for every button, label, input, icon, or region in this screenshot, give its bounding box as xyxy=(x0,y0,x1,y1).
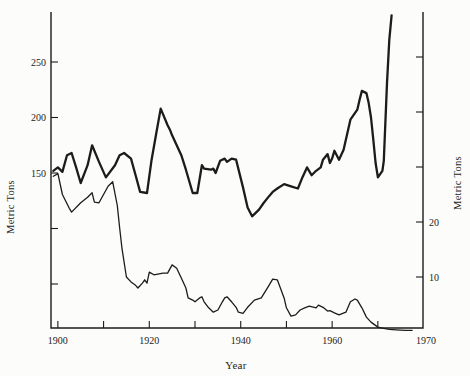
x-tick-label: 1940 xyxy=(231,335,251,346)
left-axis-title: Metric Tons xyxy=(5,180,16,234)
y-tick-label-left: 200 xyxy=(31,112,46,123)
x-tick-label: 1920 xyxy=(139,335,159,346)
x-axis-title: Year xyxy=(225,359,246,371)
upper-series-line xyxy=(53,15,391,216)
axis-frame xyxy=(51,12,423,328)
y-tick-label-right: 20 xyxy=(429,217,439,228)
x-tick-label: 1970 xyxy=(416,335,436,346)
x-tick-label: 1960 xyxy=(322,335,342,346)
lower-series-line xyxy=(53,174,412,331)
x-tick-label: 1900 xyxy=(48,335,68,346)
y-tick-label-left: 150 xyxy=(31,168,46,179)
y-tick-label-left: 250 xyxy=(31,57,46,68)
line-chart: 190019201940196019701502002501020 xyxy=(0,0,470,376)
y-tick-label-right: 10 xyxy=(429,272,439,283)
chart-figure: 190019201940196019701502002501020 Metric… xyxy=(0,0,470,376)
right-axis-title: Metric Tons xyxy=(452,156,463,210)
